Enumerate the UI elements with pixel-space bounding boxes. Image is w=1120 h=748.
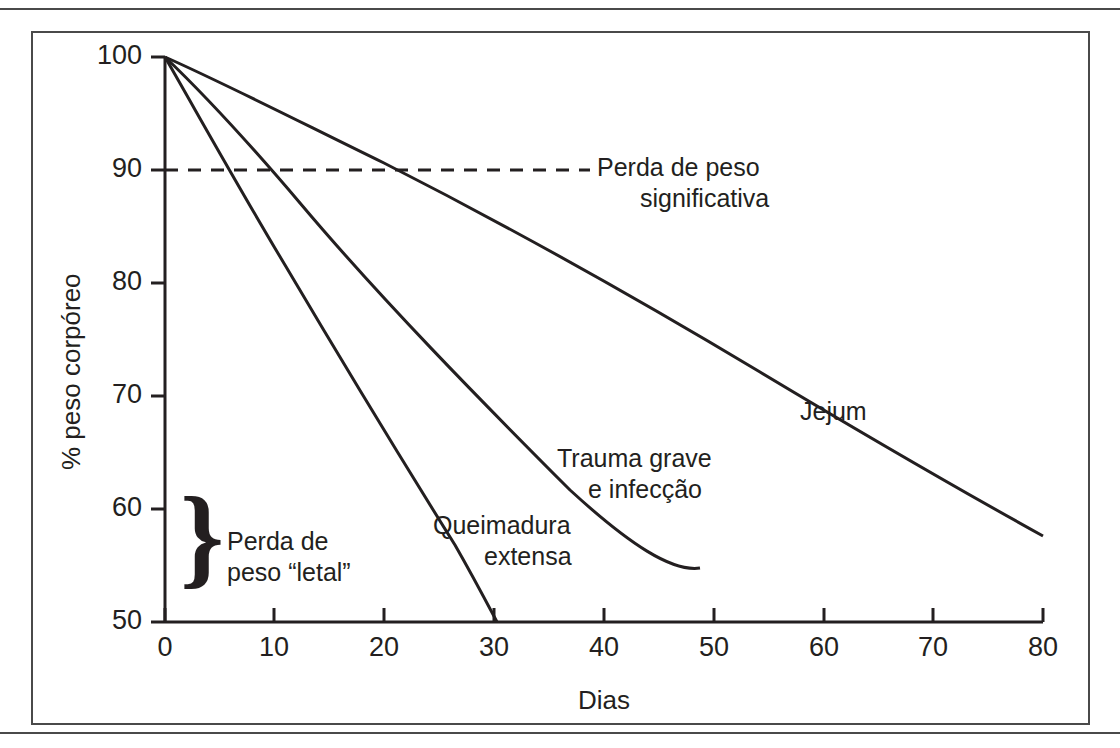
x-tick-label-80: 80 — [1013, 632, 1073, 663]
curve-label-trauma-line1: Trauma grave — [557, 443, 712, 473]
y-tick-label-100: 100 — [72, 40, 142, 71]
x-tick-label-40: 40 — [574, 632, 634, 663]
x-axis-title: Dias — [504, 685, 704, 716]
x-tick-label-0: 0 — [135, 632, 195, 663]
x-tick-label-60: 60 — [794, 632, 854, 663]
y-tick-label-60: 60 — [72, 492, 142, 523]
y-tick-label-50: 50 — [72, 605, 142, 636]
y-axis-title: % peso corpóreo — [56, 273, 87, 470]
curve-label-queimadura-line1: Queimadura — [433, 510, 571, 540]
curve-label-jejum: Jejum — [800, 396, 867, 426]
x-tick-label-20: 20 — [354, 632, 414, 663]
annotation-lethal-line1: Perda de — [227, 526, 328, 556]
figure-root: 100 90 80 70 60 50 0 10 20 30 40 50 60 7… — [0, 0, 1120, 748]
annotation-lethal-line2: peso “letal” — [227, 557, 351, 587]
y-tick-label-90: 90 — [72, 153, 142, 184]
lethal-brace-icon: } — [180, 480, 224, 592]
x-tick-label-10: 10 — [244, 632, 304, 663]
curve-label-trauma-line2: e infecção — [588, 474, 702, 504]
annotation-significant-line2: significativa — [640, 183, 769, 213]
curve-label-queimadura-line2: extensa — [484, 541, 572, 571]
x-tick-label-70: 70 — [903, 632, 963, 663]
x-tick-label-50: 50 — [684, 632, 744, 663]
x-tick-label-30: 30 — [464, 632, 524, 663]
annotation-significant-line1: Perda de peso — [597, 152, 760, 182]
